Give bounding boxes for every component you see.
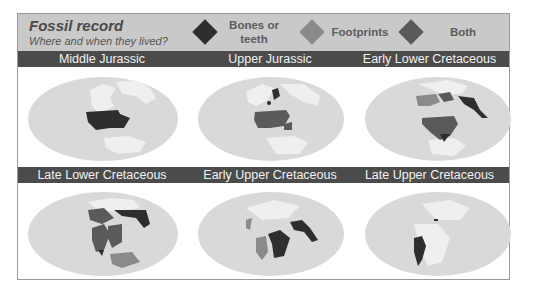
map-middle-jurassic xyxy=(28,77,178,161)
map-late-lower-cretaceous xyxy=(28,192,178,276)
maps-layer xyxy=(18,14,511,281)
map-early-upper-cretaceous xyxy=(198,192,344,276)
map-late-upper-cretaceous xyxy=(365,192,511,276)
fossil-record-figure: Fossil record Where and when they lived?… xyxy=(17,13,510,280)
map-early-lower-cretaceous xyxy=(365,77,511,161)
map-upper-jurassic xyxy=(198,77,344,161)
